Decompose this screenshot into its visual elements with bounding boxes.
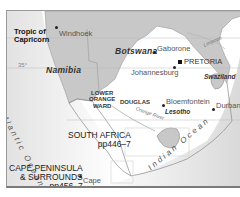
city-bloemfontein: Bloemfontein — [166, 98, 210, 106]
windhoek-dot — [55, 26, 58, 29]
city-johannesburg: Johannesburg — [131, 69, 179, 77]
cape-peninsula-page-ref[interactable]: CAPE PENINSULA & SURROUNDS pp456–7 — [9, 164, 83, 188]
map-frame: Tropic of Capricorn Windhoek 35° Namibia… — [6, 10, 240, 188]
gaborone-dot — [153, 51, 156, 54]
durban-dot — [212, 108, 215, 111]
bloemfontein-dot — [162, 104, 165, 107]
pretoria-marker — [178, 60, 182, 64]
ref-pages: pp456–7 — [9, 182, 83, 188]
region-douglas: DOUGLAS — [120, 99, 150, 105]
city-windhoek: Windhoek — [59, 30, 92, 38]
country-botswana: Botswana — [115, 47, 158, 56]
country-lesotho: Lesotho — [165, 109, 190, 116]
city-durban: Durban — [216, 102, 240, 110]
tropic-of-capricorn-label: Tropic of Capricorn — [14, 28, 49, 43]
region-line-3: WARD — [89, 103, 115, 109]
cape-town-line-2: Town — [83, 185, 101, 188]
ref-pages: pp446–7 — [68, 140, 131, 149]
country-namibia: Namibia — [46, 66, 81, 75]
country-swaziland: Swaziland — [204, 74, 235, 81]
tropic-line-2: Capricorn — [14, 36, 49, 44]
south-africa-page-ref[interactable]: SOUTH AFRICA pp446–7 — [68, 131, 131, 149]
city-cape-town: Cape Town — [83, 177, 101, 188]
cape-town-dot — [79, 175, 82, 178]
city-gaborone: Gaborone — [157, 45, 190, 53]
region-line-2: ORANGE — [89, 96, 115, 102]
region-lower-orange-ward: LOWER ORANGE WARD — [89, 90, 115, 109]
latitude-label: 35° — [18, 62, 27, 68]
city-pretoria: PRETORIA — [184, 58, 222, 66]
